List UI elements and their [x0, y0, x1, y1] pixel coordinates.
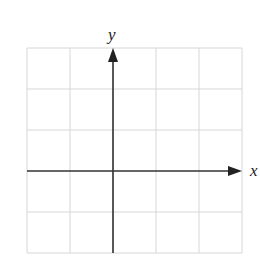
x-axis-arrow-icon — [228, 166, 242, 176]
coordinate-plane: x y — [0, 0, 260, 265]
y-axis-label: y — [106, 25, 116, 44]
y-axis-arrow-icon — [108, 48, 118, 62]
y-axis — [108, 48, 118, 253]
grid-lines — [27, 48, 242, 253]
x-axis-label: x — [249, 161, 258, 180]
x-axis — [27, 166, 242, 176]
